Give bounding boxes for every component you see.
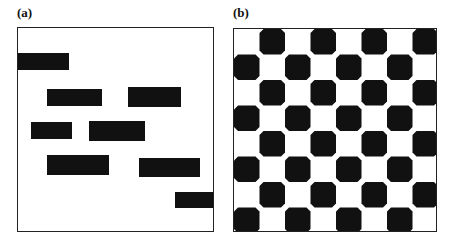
black-square <box>311 182 337 208</box>
black-square <box>362 80 388 106</box>
panel-b-checkerboard <box>233 28 437 232</box>
black-square <box>311 131 337 157</box>
black-square <box>285 157 311 183</box>
black-square <box>336 55 362 81</box>
black-square <box>336 208 362 233</box>
black-square <box>362 182 388 208</box>
black-square <box>362 131 388 157</box>
black-square <box>387 157 413 183</box>
black-rectangle <box>128 87 181 107</box>
black-square <box>260 29 286 55</box>
black-square <box>285 106 311 132</box>
black-square <box>387 106 413 132</box>
black-square <box>311 29 337 55</box>
black-square <box>413 80 438 106</box>
black-square <box>336 106 362 132</box>
black-square <box>260 182 286 208</box>
black-rectangle <box>139 158 200 177</box>
black-square <box>234 157 260 183</box>
black-rectangle <box>89 121 145 141</box>
black-rectangle <box>18 53 69 70</box>
black-rectangle <box>175 192 214 208</box>
black-rectangle <box>47 155 109 175</box>
black-square <box>285 208 311 233</box>
black-square <box>387 208 413 233</box>
black-square <box>234 106 260 132</box>
panel-a-random-rectangles <box>17 27 214 232</box>
black-square <box>413 131 438 157</box>
black-square <box>260 80 286 106</box>
checkerboard-grid <box>234 29 437 232</box>
panel-b-label: (b) <box>233 5 249 21</box>
black-square <box>336 157 362 183</box>
panel-a-label: (a) <box>17 5 32 21</box>
black-rectangle <box>47 89 102 106</box>
black-square <box>234 55 260 81</box>
black-square <box>413 29 438 55</box>
black-square <box>387 55 413 81</box>
black-square <box>311 80 337 106</box>
black-square <box>362 29 388 55</box>
black-square <box>234 208 260 233</box>
black-square <box>413 182 438 208</box>
black-square <box>260 131 286 157</box>
black-square <box>285 55 311 81</box>
black-rectangle <box>31 122 72 139</box>
